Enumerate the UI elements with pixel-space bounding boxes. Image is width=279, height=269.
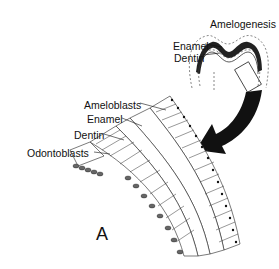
inset-title: Amelogenesis (210, 18, 276, 30)
label-odontoblasts: Odontoblasts (27, 147, 89, 159)
inset-label-dentin: Dentin (174, 52, 204, 64)
label-enamel: Enamel (87, 113, 123, 125)
diagram-canvas (0, 0, 279, 269)
label-ameloblasts: Ameloblasts (84, 99, 141, 111)
big-arrow-icon (196, 90, 262, 154)
inset-label-enamel: Enamel (173, 40, 209, 52)
panel-letter: A (96, 224, 108, 244)
label-dentin: Dentin (74, 129, 104, 141)
